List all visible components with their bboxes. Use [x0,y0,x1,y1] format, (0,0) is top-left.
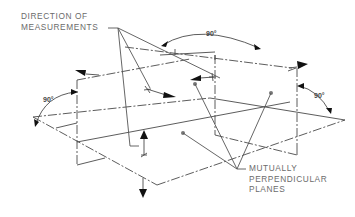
angle-label-top: 90° [206,30,217,37]
planes-label-line-3: PLANES [249,184,327,195]
angle-label-right: 90° [314,92,325,99]
angle-label-left: 90° [43,96,54,103]
direction-of-measurements-label: DIRECTION OF MEASUREMENTS [21,11,98,32]
planes-label-line-2: PERPENDICULAR [249,174,327,185]
direction-label-line-1: DIRECTION OF [21,11,98,22]
direction-label-line-2: MEASUREMENTS [21,22,98,33]
mutually-perpendicular-planes-label: MUTUALLY PERPENDICULAR PLANES [249,163,327,195]
planes-leaders [181,82,273,169]
planes-label-line-1: MUTUALLY [249,163,327,174]
back-vertical-plane [125,47,297,155]
angle-arcs [34,34,332,127]
